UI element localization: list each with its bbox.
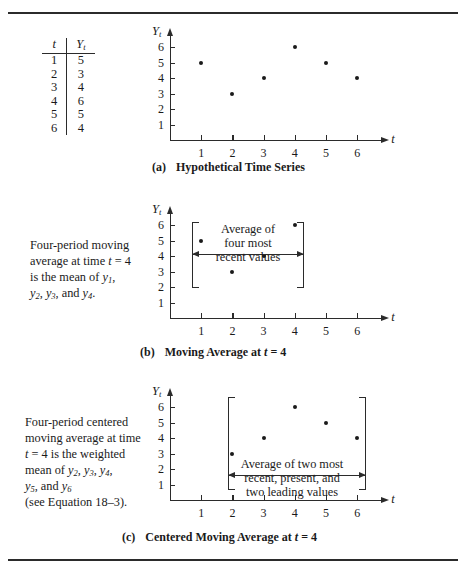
top-horizontal-rule <box>8 12 458 14</box>
data-point <box>230 270 234 274</box>
y-axis-tick <box>170 47 175 48</box>
y-axis-tick-label: 6 <box>148 219 164 231</box>
x-axis-line <box>170 318 381 319</box>
panel-c-annotation-line-1: Average of two most <box>222 457 362 472</box>
x-axis-tick-label: 6 <box>349 507 365 519</box>
x-axis-tick-label: 1 <box>193 507 209 519</box>
data-point <box>324 61 328 65</box>
chart-a: Ytt654321123456 <box>0 18 466 168</box>
y-axis-tick <box>170 287 175 288</box>
caption-text-2: = 4 <box>298 530 317 544</box>
panel-b-span-arrow-left-arrowhead-icon <box>192 251 199 257</box>
x-axis-tick-label: 3 <box>256 507 272 519</box>
caption-text-1: Centered Moving Average at <box>145 530 295 544</box>
y-axis-title: Yt <box>152 25 161 39</box>
y-axis-tick-label: 3 <box>148 448 164 460</box>
panel-b-annotation-line-2: four most <box>200 236 296 251</box>
y-axis-arrow-icon <box>167 206 173 214</box>
y-axis-tick <box>170 272 175 273</box>
x-axis-arrow-icon <box>381 315 389 321</box>
x-axis-tick-label: 6 <box>349 147 365 159</box>
chart-b: Ytt654321123456 <box>0 196 466 346</box>
x-axis-line <box>170 500 381 501</box>
x-axis-tick-label: 3 <box>256 325 272 337</box>
caption-label: (a) <box>152 160 166 174</box>
x-axis-tick-label: 4 <box>287 325 303 337</box>
y-axis-tick <box>170 485 175 486</box>
y-axis-tick <box>170 78 175 79</box>
x-axis-tick <box>201 495 202 500</box>
y-axis-tick-label: 3 <box>148 266 164 278</box>
y-axis-title: Yt <box>152 203 161 217</box>
x-axis-line <box>170 140 381 141</box>
y-axis-tick <box>170 241 175 242</box>
panel-b-annotation-line-1: Average of <box>200 222 296 237</box>
caption-text-2: = 4 <box>267 345 286 359</box>
panel-c-annotation-line-3: two leading values <box>222 485 362 500</box>
x-axis-tick-label: 5 <box>318 507 334 519</box>
x-axis-tick-label: 1 <box>193 147 209 159</box>
data-point <box>262 436 266 440</box>
y-axis-tick <box>170 303 175 304</box>
panel-b-span-arrow-right-arrowhead-icon <box>297 251 304 257</box>
y-axis-tick <box>170 407 175 408</box>
y-axis-tick <box>170 109 175 110</box>
x-axis-tick <box>232 135 233 140</box>
x-axis-tick-label: 4 <box>287 147 303 159</box>
y-axis-tick-label: 1 <box>148 119 164 131</box>
y-axis-tick-label: 5 <box>148 57 164 69</box>
y-axis-tick <box>170 225 175 226</box>
y-axis-arrow-icon <box>167 28 173 36</box>
y-axis-tick-label: 2 <box>148 103 164 115</box>
x-axis-tick-label: 5 <box>318 147 334 159</box>
x-axis-tick-label: 2 <box>224 507 240 519</box>
y-axis-tick-label: 4 <box>148 72 164 84</box>
y-axis-tick-label: 4 <box>148 432 164 444</box>
x-axis-title: t <box>391 133 394 146</box>
data-point <box>230 92 234 96</box>
y-axis-title: Yt <box>152 385 161 399</box>
x-axis-title: t <box>391 493 394 506</box>
x-axis-tick <box>357 135 358 140</box>
y-axis-tick-label: 5 <box>148 417 164 429</box>
data-point <box>324 421 328 425</box>
y-axis-tick-label: 2 <box>148 281 164 293</box>
caption-label: (b) <box>140 345 155 359</box>
x-axis-tick <box>357 313 358 318</box>
y-axis-tick-label: 6 <box>148 401 164 413</box>
y-axis-tick <box>170 438 175 439</box>
x-axis-tick-label: 5 <box>318 325 334 337</box>
y-axis-tick <box>170 125 175 126</box>
x-axis-arrow-icon <box>381 497 389 503</box>
x-axis-tick-label: 2 <box>224 147 240 159</box>
data-point <box>355 76 359 80</box>
x-axis-tick-label: 4 <box>287 507 303 519</box>
panel-a-hypothetical-time-series: t Yt 1 5 2 3 3 4 4 6 5 5 <box>0 18 466 178</box>
x-axis-tick <box>295 313 296 318</box>
data-point <box>199 61 203 65</box>
x-axis-arrow-icon <box>381 137 389 143</box>
x-axis-tick-label: 2 <box>224 325 240 337</box>
x-axis-tick <box>264 313 265 318</box>
x-axis-tick <box>264 135 265 140</box>
y-axis-tick <box>170 63 175 64</box>
y-axis-tick-label: 3 <box>148 88 164 100</box>
y-axis-tick <box>170 423 175 424</box>
caption-panel-a: (a)Hypothetical Time Series <box>152 160 305 175</box>
y-axis-tick <box>170 256 175 257</box>
data-point <box>262 76 266 80</box>
panel-c-annotation-line-2: recent, present, and <box>222 471 362 486</box>
caption-label: (c) <box>122 530 135 544</box>
panel-b-annotation-line-3: recent values <box>200 250 296 265</box>
y-axis-arrow-icon <box>167 388 173 396</box>
x-axis-title: t <box>391 311 394 324</box>
x-axis-tick <box>201 313 202 318</box>
y-axis-tick-label: 6 <box>148 41 164 53</box>
data-point <box>293 45 297 49</box>
caption-text: Hypothetical Time Series <box>176 160 305 174</box>
y-axis-tick <box>170 94 175 95</box>
x-axis-tick-label: 3 <box>256 147 272 159</box>
y-axis-tick <box>170 469 175 470</box>
y-axis-tick-label: 4 <box>148 250 164 262</box>
caption-text-1: Moving Average at <box>165 345 264 359</box>
